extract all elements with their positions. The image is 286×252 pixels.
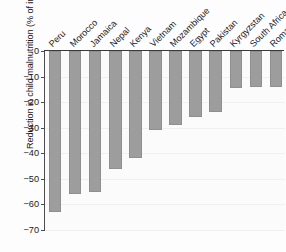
- bar: [169, 51, 181, 125]
- y-axis-tick: [41, 179, 45, 180]
- bar: [89, 51, 101, 192]
- x-axis-category-label: Peru: [47, 28, 68, 49]
- bar: [129, 51, 141, 158]
- gridline: [45, 230, 285, 231]
- y-axis-tick: [41, 204, 45, 205]
- y-axis-tick-label: 0: [34, 46, 39, 56]
- y-axis-tick-label: −50: [23, 174, 39, 184]
- bar: [189, 51, 201, 117]
- y-axis-tick-label: −60: [23, 199, 39, 209]
- x-axis-category-label: Kenya: [128, 24, 153, 49]
- bar: [250, 51, 262, 87]
- y-axis-tick: [41, 77, 45, 78]
- bar: [149, 51, 161, 130]
- y-axis-tick: [41, 102, 45, 103]
- gridline: [45, 204, 285, 205]
- y-axis-tick-label: −30: [23, 123, 39, 133]
- y-axis-tick: [41, 128, 45, 129]
- chart-figure: Reduction in child malnutrition (% of in…: [0, 0, 286, 252]
- y-axis-tick-label: −10: [23, 72, 39, 82]
- bar: [69, 51, 81, 194]
- y-axis-tick: [41, 51, 45, 52]
- y-axis-tick: [41, 230, 45, 231]
- y-axis-tick-label: −20: [23, 97, 39, 107]
- bar: [230, 51, 242, 88]
- plot-area: 0−10−20−30−40−50−60−70PeruMoroccoJamaica…: [44, 51, 285, 230]
- y-axis-tick-label: −70: [23, 225, 39, 235]
- y-axis-tick-label: −40: [23, 148, 39, 158]
- bar: [109, 51, 121, 169]
- bar: [209, 51, 221, 112]
- y-axis-tick: [41, 153, 45, 154]
- bar: [49, 51, 61, 212]
- bar: [270, 51, 282, 87]
